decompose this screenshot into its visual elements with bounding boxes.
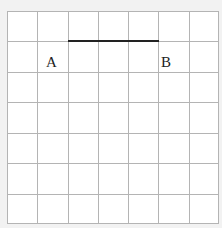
grid-line-vertical bbox=[68, 11, 69, 224]
point-label-a: A bbox=[46, 55, 57, 70]
grid bbox=[7, 11, 219, 224]
grid-line-horizontal bbox=[7, 163, 219, 164]
grid-line-horizontal bbox=[7, 102, 219, 103]
grid-line-horizontal bbox=[7, 72, 219, 73]
grid-line-horizontal bbox=[7, 194, 219, 195]
grid-line-vertical bbox=[189, 11, 190, 224]
grid-line-vertical bbox=[98, 11, 99, 224]
grid-line-horizontal bbox=[7, 133, 219, 134]
grid-line-horizontal bbox=[7, 223, 219, 224]
grid-line-vertical bbox=[158, 11, 159, 224]
grid-line-vertical bbox=[37, 11, 38, 224]
grid-line-vertical bbox=[7, 11, 8, 224]
grid-line-vertical bbox=[128, 11, 129, 224]
grid-line-horizontal bbox=[7, 11, 219, 12]
grid-line-vertical bbox=[218, 11, 219, 224]
point-label-b: B bbox=[161, 55, 171, 70]
line-segment bbox=[68, 40, 159, 42]
